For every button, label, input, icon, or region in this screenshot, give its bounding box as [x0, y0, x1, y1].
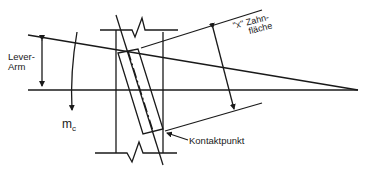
- moment-label: mc: [62, 118, 76, 134]
- lever-arm-label: Lever- Arm: [8, 52, 35, 72]
- bottom-break-bar: [95, 142, 177, 162]
- moment-arc-arrow: [72, 32, 77, 110]
- contact-point-label: Kontaktpunkt: [189, 136, 244, 146]
- lever-arm-label-line2: Arm: [8, 62, 35, 72]
- tooth-face-lower-line: [165, 103, 262, 131]
- gear-tooth-diagram: [0, 0, 366, 176]
- contact-point-leader: [167, 133, 188, 140]
- lever-line: [28, 35, 358, 90]
- top-break-bar: [100, 18, 178, 37]
- moment-label-main: m: [62, 117, 72, 131]
- moment-label-sub: c: [72, 124, 76, 133]
